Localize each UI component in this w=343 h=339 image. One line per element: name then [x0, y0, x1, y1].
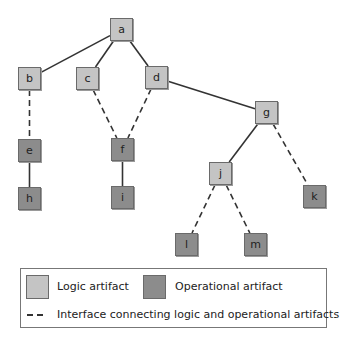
node-g: g: [255, 101, 278, 124]
edge-g-k: [273, 124, 308, 185]
edge-d-f: [128, 89, 151, 138]
edge-j-m: [226, 185, 250, 233]
node-f: f: [111, 138, 134, 161]
node-j: j: [209, 162, 232, 185]
edge-a-d: [130, 41, 148, 66]
legend: Logic artifact Operational artifact Inte…: [20, 268, 327, 328]
edge-j-l: [192, 185, 215, 233]
legend-interface-label: Interface connecting logic and operation…: [57, 308, 339, 321]
node-m: m: [244, 233, 267, 256]
node-l: l: [175, 233, 198, 256]
node-e: e: [18, 139, 41, 162]
edge-g-j: [229, 124, 258, 162]
hierarchy-diagram: abcdgefjhiklm Logic artifact Operational…: [0, 0, 343, 339]
edge-d-g: [168, 81, 255, 109]
node-b: b: [18, 67, 41, 90]
node-d: d: [145, 66, 168, 89]
operational-swatch: [143, 275, 166, 299]
node-k: k: [303, 185, 326, 208]
edge-a-c: [95, 41, 113, 67]
edge-c-f: [93, 90, 117, 138]
node-a: a: [110, 18, 133, 41]
logic-swatch: [26, 275, 49, 299]
legend-logic-label: Logic artifact: [57, 280, 129, 293]
node-h: h: [18, 187, 41, 210]
node-c: c: [76, 67, 99, 90]
node-i: i: [111, 186, 134, 209]
legend-operational-label: Operational artifact: [175, 280, 283, 293]
dashed-line-icon: [27, 314, 43, 316]
